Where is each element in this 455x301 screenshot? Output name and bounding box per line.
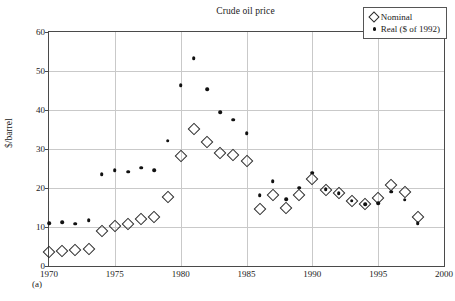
y-tick-label-50: 50: [36, 66, 45, 76]
y-tick-mark-60: [45, 32, 49, 33]
legend-label-nominal: Nominal: [381, 11, 413, 23]
x-tick-label-1975: 1975: [106, 269, 124, 279]
data-point: [43, 246, 56, 259]
data-point: [253, 202, 266, 215]
x-tick-label-1995: 1995: [369, 269, 387, 279]
data-point: [161, 190, 174, 203]
y-tick-mark-20: [45, 188, 49, 189]
y-tick-mark-50: [45, 71, 49, 72]
data-point: [74, 222, 78, 226]
data-point: [139, 166, 143, 170]
data-point: [345, 194, 358, 207]
data-point: [201, 135, 214, 148]
gridline-x-1975: [115, 32, 116, 266]
data-point: [187, 123, 200, 136]
open-diamond-icon: [368, 13, 381, 21]
y-tick-mark-30: [45, 149, 49, 150]
data-point: [205, 87, 209, 91]
y-axis-label: $/barrel: [4, 118, 14, 148]
chart-legend: Nominal Real ($ of 1992): [363, 7, 447, 39]
legend-item-nominal: Nominal: [368, 11, 440, 23]
y-tick-mark-10: [45, 227, 49, 228]
data-point: [60, 220, 64, 224]
data-point: [280, 202, 293, 215]
data-point: [319, 183, 332, 196]
legend-item-real: Real ($ of 1992): [368, 23, 440, 35]
data-point: [232, 118, 236, 122]
data-point: [56, 244, 69, 257]
gridline-x-1980: [181, 32, 182, 266]
data-point: [411, 210, 424, 223]
data-point: [148, 210, 161, 223]
data-point: [227, 148, 240, 161]
gridline-x-1995: [378, 32, 379, 266]
data-point: [403, 198, 407, 202]
data-point: [100, 173, 104, 177]
y-tick-label-20: 20: [36, 183, 45, 193]
y-tick-label-40: 40: [36, 105, 45, 115]
data-point: [385, 179, 398, 192]
x-tick-label-1990: 1990: [303, 269, 321, 279]
data-point: [47, 221, 51, 225]
data-point: [359, 198, 372, 211]
legend-label-real: Real ($ of 1992): [381, 23, 440, 35]
gridline-x-1985: [247, 32, 248, 266]
data-point: [87, 218, 91, 222]
y-tick-label-30: 30: [36, 144, 45, 154]
data-point: [363, 203, 367, 207]
data-point: [390, 190, 394, 194]
data-point: [266, 189, 279, 202]
data-point: [135, 212, 148, 225]
gridline-x-1990: [312, 32, 313, 266]
x-tick-label-2000: 2000: [435, 269, 453, 279]
data-point: [166, 139, 170, 143]
data-point: [122, 218, 135, 231]
data-point: [293, 189, 306, 202]
x-tick-label-1985: 1985: [238, 269, 256, 279]
figure-caption: (a): [32, 279, 42, 289]
y-tick-mark-40: [45, 110, 49, 111]
y-tick-label-10: 10: [36, 222, 45, 232]
y-tick-label-60: 60: [36, 27, 45, 37]
data-point: [350, 199, 354, 203]
y-tick-mark-0: [45, 266, 49, 267]
data-point: [192, 56, 196, 60]
data-point: [258, 193, 262, 197]
filled-circle-icon: [368, 27, 381, 30]
data-point: [82, 242, 95, 255]
data-point: [126, 170, 130, 174]
data-point: [69, 244, 82, 257]
data-point: [337, 192, 341, 196]
x-tick-label-1980: 1980: [172, 269, 190, 279]
data-point: [284, 197, 288, 201]
data-point: [416, 221, 420, 225]
plot-area: 0102030405060 19701975198019851990199520…: [48, 31, 445, 267]
x-tick-label-1970: 1970: [40, 269, 58, 279]
figure-crude-oil-price: Crude oil price $/barrel 0102030405060 1…: [0, 0, 455, 301]
data-point: [271, 180, 275, 184]
data-point: [153, 168, 157, 172]
